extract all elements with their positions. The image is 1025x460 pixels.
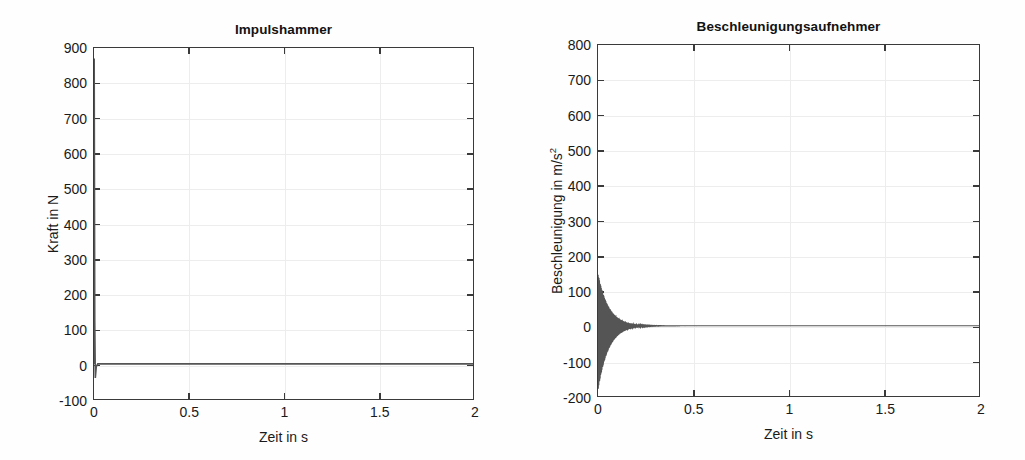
plot-area-impulshammer: Impulshammer -10001002003004005006007008… <box>93 47 474 400</box>
y-tick-label: 600 <box>64 146 87 162</box>
y-tick-label: 400 <box>568 178 591 194</box>
chart-panel-impulshammer: Impulshammer -10001002003004005006007008… <box>0 0 512 460</box>
x-tick-label: 0.5 <box>684 401 703 417</box>
y-axis-title-beschleunigungsaufnehmer: Beschleunigung in m/s2 <box>547 147 565 293</box>
impulshammer-trace-svg <box>94 48 473 399</box>
y-tick-label: 600 <box>568 108 591 124</box>
y-axis-title-impulshammer: Kraft in N <box>45 194 61 252</box>
x-axis-title-beschleunigungsaufnehmer: Zeit in s <box>764 426 813 442</box>
y-tick-label: 800 <box>568 37 591 53</box>
force-impulse-line <box>94 59 473 378</box>
y-tick-label: 300 <box>568 214 591 230</box>
chart-panel-beschleunigungsaufnehmer: Beschleunigungsaufnehmer -200-1000100200… <box>512 0 1025 460</box>
y-tick-label: 200 <box>64 287 87 303</box>
x-tick-label: 1.5 <box>876 401 895 417</box>
y-tick-label: 700 <box>64 111 87 127</box>
x-tick-label: 1.5 <box>370 404 389 420</box>
y-tick-label: 500 <box>64 181 87 197</box>
y-tick-label: 800 <box>64 75 87 91</box>
x-tick-label: 1 <box>281 404 289 420</box>
x-axis-title-impulshammer: Zeit in s <box>259 429 308 445</box>
x-tick-label: 1 <box>786 401 794 417</box>
y-tick-label: 500 <box>568 143 591 159</box>
chart-title-beschleunigungsaufnehmer: Beschleunigungsaufnehmer <box>598 19 979 34</box>
y-tick-label: -100 <box>563 355 591 371</box>
x-tick-label: 0 <box>594 401 602 417</box>
y-tick-label: 0 <box>79 358 87 374</box>
y-tick-label: -100 <box>59 393 87 409</box>
y-tick-label: 200 <box>568 249 591 265</box>
x-tick-label: 2 <box>471 404 479 420</box>
figure-page: Impulshammer -10001002003004005006007008… <box>0 0 1025 460</box>
y-tick-label: -200 <box>563 390 591 406</box>
y-tick-label: 700 <box>568 72 591 88</box>
x-tick-label: 0 <box>90 404 98 420</box>
y-tick-label: 0 <box>583 319 591 335</box>
x-tick-label: 0.5 <box>180 404 199 420</box>
y-tick-label: 400 <box>64 217 87 233</box>
x-tick-label: 2 <box>977 401 985 417</box>
y-tick-label: 100 <box>64 322 87 338</box>
acceleration-decay-line <box>598 275 979 389</box>
chart-title-impulshammer: Impulshammer <box>94 22 473 37</box>
beschleunigung-trace-svg <box>598 45 979 396</box>
y-tick-label: 100 <box>568 284 591 300</box>
superscript-two: 2 <box>547 147 558 152</box>
plot-area-beschleunigungsaufnehmer: Beschleunigungsaufnehmer -200-1000100200… <box>597 44 980 397</box>
y-tick-label: 300 <box>64 252 87 268</box>
data-trace-beschleunigungsaufnehmer <box>598 45 979 396</box>
data-trace-impulshammer <box>94 48 473 399</box>
y-axis-title-text: Beschleunigung in m/s <box>549 153 565 294</box>
y-tick-label: 900 <box>64 40 87 56</box>
